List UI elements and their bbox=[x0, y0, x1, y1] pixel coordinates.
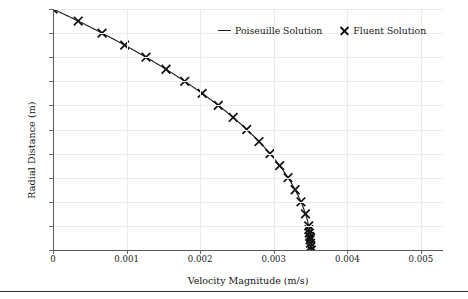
legend-label-poiseuille: Poiseuille Solution bbox=[235, 25, 322, 36]
figure-container: Radial Distance (m) Velocity Magnitude (… bbox=[0, 0, 468, 299]
gridline-horizontal bbox=[53, 57, 443, 58]
legend-label-fluent: Fluent Solution bbox=[353, 25, 426, 36]
data-point-marker bbox=[301, 210, 310, 219]
y-axis-title: Radial Distance (m) bbox=[26, 65, 37, 235]
gridline-vertical bbox=[127, 9, 128, 250]
x-tick-label: 0.005 bbox=[391, 254, 451, 264]
gridline-vertical bbox=[421, 9, 422, 250]
gridline-horizontal bbox=[53, 81, 443, 82]
data-point-marker bbox=[120, 41, 129, 50]
gridline-horizontal bbox=[53, 202, 443, 203]
data-point-marker bbox=[275, 161, 284, 170]
gridline-horizontal bbox=[53, 154, 443, 155]
x-marker-icon bbox=[340, 26, 349, 35]
x-tick-label: 0.001 bbox=[97, 254, 157, 264]
gridline-vertical bbox=[274, 9, 275, 250]
data-point-marker bbox=[291, 185, 300, 194]
x-axis-title: Velocity Magnitude (m/s) bbox=[53, 275, 443, 286]
x-tick-label: 0.004 bbox=[317, 254, 377, 264]
chart-legend: Poiseuille Solution Fluent Solution bbox=[218, 25, 426, 36]
figure-bottom-rule bbox=[0, 291, 468, 292]
data-point-marker bbox=[162, 65, 171, 74]
legend-item-poiseuille[interactable]: Poiseuille Solution bbox=[218, 25, 322, 36]
gridline-horizontal bbox=[53, 105, 443, 106]
line-icon bbox=[218, 30, 231, 31]
x-tick-label: 0 bbox=[23, 254, 83, 264]
gridline-vertical bbox=[347, 9, 348, 250]
gridline-vertical bbox=[200, 9, 201, 250]
data-point-marker bbox=[229, 113, 238, 122]
gridline-horizontal bbox=[53, 9, 443, 10]
legend-item-fluent[interactable]: Fluent Solution bbox=[340, 25, 426, 36]
gridline-horizontal bbox=[53, 178, 443, 179]
gridline-horizontal bbox=[53, 226, 443, 227]
plot-area bbox=[53, 9, 443, 250]
x-tick-label: 0.002 bbox=[170, 254, 230, 264]
x-tick-label: 0.003 bbox=[244, 254, 304, 264]
x-axis-line bbox=[53, 250, 443, 251]
data-point-marker bbox=[198, 89, 207, 98]
y-axis-line bbox=[53, 9, 54, 250]
gridline-horizontal bbox=[53, 130, 443, 131]
data-point-marker bbox=[74, 17, 83, 26]
data-point-marker bbox=[255, 137, 264, 146]
